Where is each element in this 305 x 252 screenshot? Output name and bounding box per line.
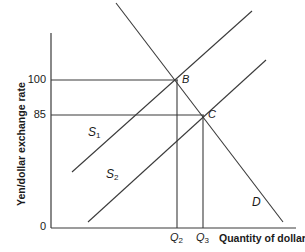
curve-label-s2-subscript: 2 bbox=[114, 173, 118, 182]
point-label-c: C bbox=[208, 109, 216, 120]
origin-label-zero: 0 bbox=[18, 221, 46, 232]
x-tick-label-q2: Q2 bbox=[170, 232, 183, 245]
y-axis-title: Yen/dollar exchange rate bbox=[16, 82, 27, 206]
curve-label-s1-subscript: 1 bbox=[96, 131, 100, 140]
point-label-b: B bbox=[182, 74, 189, 85]
y-tick-label-100: 100 bbox=[18, 74, 46, 85]
x-tick-q3-subscript: 3 bbox=[205, 236, 209, 245]
x-axis-title: Quantity of dollars bbox=[219, 233, 305, 244]
curve-label-s1-base: S bbox=[88, 125, 96, 139]
curve-label-d: D bbox=[252, 196, 261, 208]
x-tick-q2-subscript: 2 bbox=[179, 236, 183, 245]
chart-canvas bbox=[0, 0, 305, 252]
curve-label-s2-base: S bbox=[106, 167, 114, 181]
x-tick-q2-base: Q bbox=[170, 231, 179, 243]
demand-curve-D bbox=[116, 3, 283, 222]
curve-label-s2: S2 bbox=[106, 168, 118, 182]
supply-curve-S1 bbox=[72, 11, 252, 172]
y-tick-label-85: 85 bbox=[18, 109, 46, 120]
x-tick-q3-base: Q bbox=[196, 231, 205, 243]
x-tick-label-q3: Q3 bbox=[196, 232, 209, 245]
exchange-rate-supply-demand-figure: Yen/dollar exchange rate 100 85 0 Q2 Q3 … bbox=[0, 0, 305, 252]
curve-label-s1: S1 bbox=[88, 126, 100, 140]
